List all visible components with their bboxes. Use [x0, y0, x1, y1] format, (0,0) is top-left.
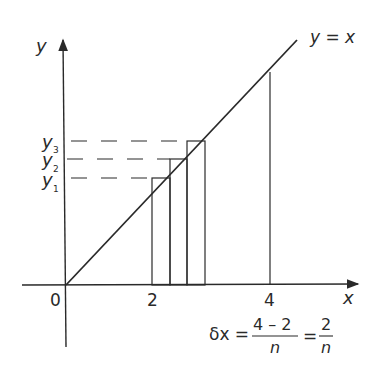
x-tick-4: 4 [264, 290, 275, 310]
rectangle-3 [187, 141, 205, 285]
formula-equals: = [303, 326, 317, 346]
y-axis-label: y [35, 35, 47, 56]
line-label: y = x [309, 27, 356, 47]
origin-label: 0 [50, 290, 61, 310]
y-axis [63, 40, 66, 347]
formula-lhs: δx = [209, 324, 249, 344]
rectangle-1 [152, 178, 170, 285]
x-axis-label: x [342, 287, 354, 308]
formula-frac2-numerator: 2 [321, 315, 331, 334]
line-y-equals-x [66, 40, 297, 285]
y1-subscript: 1 [53, 184, 59, 194]
formula-frac1-denominator: n [270, 338, 280, 357]
y3-label: y [41, 131, 53, 152]
y3-subscript: 3 [53, 145, 59, 155]
rectangle-2 [170, 159, 187, 285]
formula-frac2-denominator: n [321, 338, 331, 357]
formula-frac1-numerator: 4 – 2 [253, 315, 292, 334]
y1-label: y [41, 169, 53, 190]
x-tick-2: 2 [147, 290, 158, 310]
y2-label: y [41, 149, 53, 170]
y2-subscript: 2 [53, 164, 59, 174]
riemann-sum-diagram: y x y = x 0 2 4 y 1 y 2 y 3 δx = 4 – 2 n… [0, 0, 376, 379]
